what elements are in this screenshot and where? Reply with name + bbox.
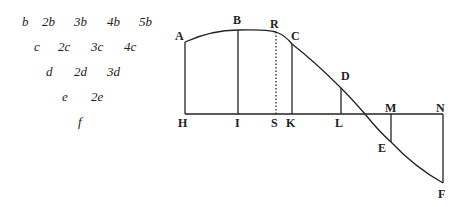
point-label-D: D [341, 69, 350, 83]
point-label-C: C [291, 29, 300, 43]
point-label-S: S [271, 116, 278, 130]
point-label-I: I [235, 116, 240, 130]
point-label-L: L [335, 116, 343, 130]
point-label-E: E [378, 141, 386, 155]
point-label-M: M [385, 101, 396, 115]
point-label-K: K [286, 116, 296, 130]
point-label-R: R [270, 17, 279, 31]
point-label-F: F [438, 187, 445, 201]
point-label-A: A [175, 29, 184, 43]
point-label-B: B [233, 13, 241, 27]
point-label-H: H [178, 116, 188, 130]
point-label-N: N [436, 101, 445, 115]
curve-figure: A B R C D E F H I S K L M N [0, 0, 467, 207]
curve-AF [185, 30, 443, 183]
